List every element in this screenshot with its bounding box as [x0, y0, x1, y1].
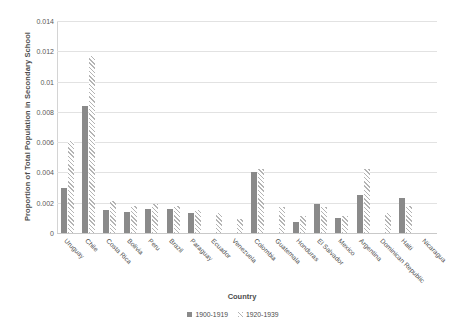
- bar: [357, 195, 363, 233]
- x-axis-tick-label: Nicaragua: [421, 237, 448, 264]
- x-axis-tick-labels: UruguayChileCosta RicaBoliviaPeruBrazilP…: [57, 235, 437, 293]
- bar-group: [310, 21, 331, 233]
- bar: [321, 207, 327, 233]
- bar: [251, 172, 257, 233]
- y-axis-tick-label: 0.014: [14, 18, 54, 25]
- bar: [300, 216, 306, 233]
- x-axis-tick-label-cell: Ecuador: [205, 235, 226, 293]
- bar: [188, 213, 194, 233]
- bar: [131, 206, 137, 233]
- y-axis-tick-label: 0.004: [14, 169, 54, 176]
- y-axis-tick-label: 0.006: [14, 139, 54, 146]
- legend-item[interactable]: 1920-1939: [238, 311, 279, 318]
- y-axis-tick-label: 0.01: [14, 78, 54, 85]
- bar: [385, 213, 391, 233]
- legend-label: 1920-1939: [246, 311, 279, 318]
- bar-group: [416, 21, 437, 233]
- bar-group: [184, 21, 205, 233]
- x-axis-tick-label-cell: Peru: [141, 235, 162, 293]
- x-axis-tick-label-cell: Bolivia: [120, 235, 141, 293]
- x-axis-tick-label-cell: El Salvador: [310, 235, 331, 293]
- bar: [314, 204, 320, 233]
- y-axis-tick-label: 0: [14, 230, 54, 237]
- bar: [293, 222, 299, 233]
- bar-groups: [57, 21, 437, 233]
- gridline: [57, 233, 437, 234]
- x-axis-tick-label-cell: Brazil: [163, 235, 184, 293]
- bar: [237, 219, 243, 233]
- bar-group: [268, 21, 289, 233]
- bar-group: [120, 21, 141, 233]
- bar-group: [247, 21, 268, 233]
- y-axis-tick-label: 0.002: [14, 199, 54, 206]
- bar: [167, 209, 173, 233]
- x-axis-tick-label-cell: Guatemala: [268, 235, 289, 293]
- bar: [61, 188, 67, 233]
- x-axis-tick-label-cell: Nicaragua: [416, 235, 437, 293]
- x-axis-tick-label-cell: Costa Rica: [99, 235, 120, 293]
- bar-group: [353, 21, 374, 233]
- x-axis-tick-label-cell: Honduras: [289, 235, 310, 293]
- x-axis-tick-label-cell: Dominican Republic: [374, 235, 395, 293]
- x-axis-tick-label: Brazil: [168, 237, 185, 254]
- bar-group: [331, 21, 352, 233]
- bar-group: [78, 21, 99, 233]
- bar-group: [163, 21, 184, 233]
- x-axis-title: Country: [0, 292, 454, 301]
- legend-item[interactable]: 1900-1919: [187, 311, 228, 318]
- bar: [103, 210, 109, 233]
- x-axis-tick-label: Haiti: [400, 237, 414, 251]
- bar: [406, 206, 412, 233]
- legend-label: 1900-1919: [195, 311, 228, 318]
- x-axis-tick-label-cell: Argentina: [353, 235, 374, 293]
- bar: [335, 218, 341, 233]
- x-axis-tick-label: Peru: [147, 237, 162, 252]
- bar: [68, 141, 74, 233]
- bar: [124, 212, 130, 233]
- bar: [82, 106, 88, 233]
- bar: [399, 198, 405, 233]
- bar-group: [289, 21, 310, 233]
- x-axis-tick-label: Chile: [84, 237, 100, 253]
- legend-swatch-icon: [238, 312, 243, 317]
- bar: [364, 169, 370, 233]
- bar: [258, 169, 264, 233]
- x-axis-tick-label-cell: Venezuela: [226, 235, 247, 293]
- bar: [342, 216, 348, 233]
- bar-group: [57, 21, 78, 233]
- bar-group: [374, 21, 395, 233]
- bar: [152, 204, 158, 233]
- y-axis-tick-label: 0.008: [14, 108, 54, 115]
- bar-group: [395, 21, 416, 233]
- y-axis-tick-label: 0.012: [14, 48, 54, 55]
- y-axis-ticks: 00.0020.0040.0060.0080.010.0120.014: [12, 21, 54, 233]
- x-axis-tick-label-cell: Chile: [78, 235, 99, 293]
- chart-legend: 1900-19191920-1939: [0, 311, 454, 318]
- bar-group: [141, 21, 162, 233]
- x-axis-tick-label-cell: Colombia: [247, 235, 268, 293]
- bar-group: [205, 21, 226, 233]
- bar: [195, 210, 201, 233]
- x-axis-tick-label-cell: Haiti: [395, 235, 416, 293]
- bar-group: [226, 21, 247, 233]
- legend-swatch-icon: [187, 312, 192, 317]
- x-axis-tick-label-cell: Paraguay: [184, 235, 205, 293]
- bar: [145, 209, 151, 233]
- bar: [89, 56, 95, 233]
- bar: [216, 213, 222, 233]
- x-axis-tick-label-cell: Uruguay: [57, 235, 78, 293]
- bar-group: [99, 21, 120, 233]
- bar: [110, 201, 116, 233]
- bar: [279, 207, 285, 233]
- bar-chart: Proportion of Total Population in Second…: [0, 0, 454, 332]
- bar: [174, 206, 180, 233]
- x-axis-tick-label-cell: Mexico: [331, 235, 352, 293]
